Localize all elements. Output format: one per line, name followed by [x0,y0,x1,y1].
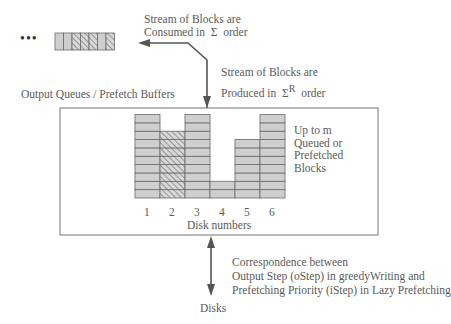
queued-block [235,190,260,198]
queued-block [185,131,210,139]
disk-number: 2 [169,206,175,219]
queued-block [160,156,185,164]
queued-block [185,181,210,189]
queued-block [135,148,160,156]
disks-label: Disks [200,302,226,315]
queued-block [160,131,185,139]
queued-block [135,165,160,173]
queued-block [160,173,185,181]
queued-block [235,173,260,181]
queued-block [135,131,160,139]
disk-number: 6 [269,206,275,219]
stream-block [106,33,115,50]
disk-number: 5 [244,206,250,219]
produced-label: Stream of Blocks are Produced in ΣR orde… [221,66,325,100]
queued-block [160,140,185,148]
queued-block [260,165,285,173]
disks-arrow [31,236,215,296]
stream-of-blocks [55,33,115,50]
queued-block [235,165,260,173]
disk-number: 3 [194,206,200,219]
queued-block [160,181,185,189]
queued-block [135,123,160,131]
queued-block [235,148,260,156]
stream-block [55,33,64,50]
queued-block [260,115,285,123]
queued-block [160,148,185,156]
queued-block [260,148,285,156]
queued-block [185,156,210,164]
queued-block [185,115,210,123]
queued-block [260,156,285,164]
queued-block [185,140,210,148]
queued-block [235,140,260,148]
queued-block [210,190,235,198]
queued-block [160,165,185,173]
correspondence-label: Correspondence between Output Step (oSte… [232,255,451,297]
queued-block [135,140,160,148]
queued-block [235,156,260,164]
queued-block [260,190,285,198]
ellipsis: ••• [20,32,38,45]
queued-block [185,190,210,198]
queued-block [135,173,160,181]
disk-number: 1 [144,206,150,219]
stream-block [98,33,107,50]
produced-arrow [203,96,211,108]
queued-block [210,181,235,189]
queued-block [185,148,210,156]
stream-block [89,33,98,50]
queued-block [260,173,285,181]
axis-title: Disk numbers [187,219,251,232]
buffers-title: Output Queues / Prefetch Buffers [21,88,175,101]
queued-block [185,173,210,181]
queued-block [135,190,160,198]
stream-block [72,33,81,50]
queued-block [135,156,160,164]
stream-block [81,33,90,50]
queued-block [135,181,160,189]
queued-block [185,123,210,131]
disk-number: 4 [219,206,225,219]
queued-block [260,181,285,189]
queued-block [260,123,285,131]
queued-block [185,165,210,173]
consumed-label: Stream of Blocks are Consumed in Σ order [144,13,247,39]
queued-block [160,190,185,198]
queued-block [260,140,285,148]
capacity-label: Up to m Queued or Prefetched Blocks [294,124,343,174]
queued-block [135,115,160,123]
queued-block [260,131,285,139]
queued-block [235,181,260,189]
disk-queues [135,115,285,199]
stream-block [64,33,73,50]
